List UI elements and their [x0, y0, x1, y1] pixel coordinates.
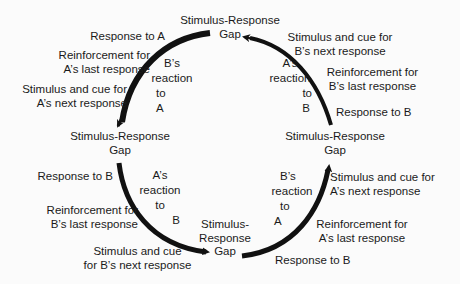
outer-label-bottom-right-3: Response to B — [275, 254, 375, 268]
reaction-label-top-left: B’s reaction to A — [142, 56, 202, 116]
node-top-gap: Stimulus-Response Gap — [170, 14, 290, 41]
node-right-gap: Stimulus-Response Gap — [275, 130, 395, 157]
outer-label-top-left-3: Stimulus and cue for A’s next response — [0, 83, 127, 110]
outer-label-bottom-left-1: Response to B — [0, 170, 113, 184]
outer-label-top-left-2: Reinforcement for A’s last response — [20, 49, 150, 76]
outer-label-top-left-1: Response to A — [30, 30, 165, 44]
reaction-label-bottom-left: A’s reaction to B — [130, 168, 190, 228]
outer-label-bottom-right-2: Reinforcement for A’s last response — [302, 218, 422, 245]
outer-label-top-right-1: Stimulus and cue for B’s next response — [275, 31, 405, 58]
outer-label-bottom-right-1: Stimulus and cue for A’s next response — [330, 171, 460, 198]
outer-label-bottom-left-3: Stimulus and cue for B’s next response — [80, 245, 195, 272]
outer-label-top-right-2: Reinforcement for B’s last response — [310, 66, 435, 93]
node-bottom-gap: Stimulus- Response Gap — [190, 218, 260, 259]
outer-label-top-right-3: Response to B — [336, 106, 436, 120]
outer-label-bottom-left-2: Reinforcement for B’s last response — [10, 204, 138, 231]
node-left-gap: Stimulus-Response Gap — [60, 130, 180, 157]
